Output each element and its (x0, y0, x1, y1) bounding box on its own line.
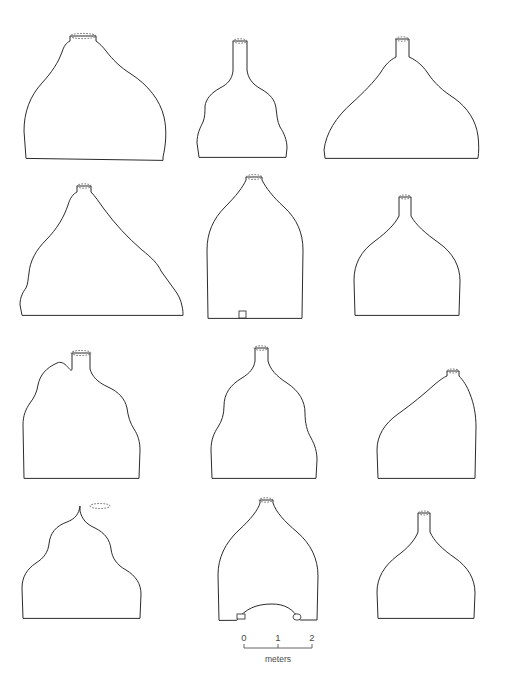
profile-drawings-svg: 0 1 2 meters (0, 0, 523, 690)
basal-aperture-secondary (293, 614, 301, 620)
basal-aperture (239, 311, 246, 318)
scale-tick-label-1: 1 (275, 632, 280, 643)
basal-aperture (237, 614, 245, 619)
scale-tick-label-0: 0 (241, 632, 246, 643)
figure-plate: 0 1 2 meters (0, 0, 523, 690)
scale-unit-label: meters (265, 654, 291, 664)
scale-tick-label-2: 2 (309, 632, 314, 643)
